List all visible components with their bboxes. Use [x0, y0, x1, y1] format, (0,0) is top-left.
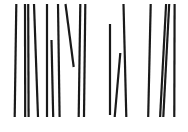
stroke-line-10 — [84, 4, 85, 117]
line-art-figure — [0, 0, 188, 132]
